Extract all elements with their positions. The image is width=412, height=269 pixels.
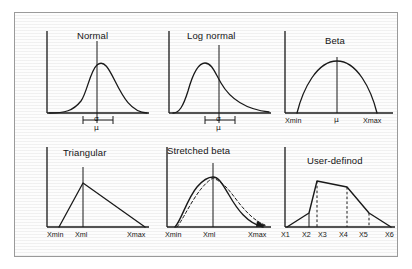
axis-label-user-defined-x4: X4 — [339, 230, 348, 239]
axis-label-beta-xmin: Xmin — [285, 116, 301, 125]
panel-title-user-defined: User-definod — [307, 155, 363, 166]
axis-label-beta-mu: μ — [334, 115, 339, 124]
axis-label-triangular-xml: Xml — [75, 230, 87, 239]
normal-plot — [33, 27, 151, 131]
axis-label-stretched-beta-xmin: Xmin — [165, 230, 181, 239]
axis-label-user-defined-x2: X2 — [302, 230, 311, 239]
panel-title-log-normal: Log normal — [187, 30, 236, 41]
axis-label-user-defined-x5: X5 — [359, 230, 368, 239]
axis-label-beta-xmax: Xmax — [363, 116, 381, 125]
axis-label-stretched-beta-xmax: Xmax — [248, 230, 266, 239]
axis-label-triangular-xmax: Xmax — [127, 230, 145, 239]
panel-title-beta: Beta — [325, 35, 345, 46]
panel-stretched-beta: Stretched beta Xmin Xml Xmax — [153, 141, 273, 245]
axis-label-stretched-beta-xml: Xml — [203, 230, 215, 239]
panel-title-stretched-beta: Stretched beta — [167, 145, 230, 156]
panel-user-defined: User-definod X1 X2 X3 X4 X5 X6 — [273, 141, 397, 245]
panel-beta: Beta Xmin μ Xmax — [273, 27, 395, 131]
mu-label-log-normal: μ — [216, 123, 221, 132]
panel-triangular: Triangular Xmin Xml Xmax — [33, 141, 151, 245]
sigma-label-log-normal: σ — [216, 114, 221, 123]
panel-title-normal: Normal — [77, 30, 108, 41]
sigma-label-normal: σ — [94, 114, 99, 123]
figure-frame: Normal σ μ Log normal σ μ Beta — [14, 12, 398, 257]
panel-log-normal: Log normal σ μ — [155, 27, 273, 131]
panel-title-triangular: Triangular — [63, 147, 106, 158]
mu-label-normal: μ — [94, 123, 99, 132]
axis-label-user-defined-x3: X3 — [318, 230, 327, 239]
log-normal-plot — [155, 27, 273, 131]
axis-label-user-defined-x6: X6 — [385, 230, 394, 239]
panel-normal: Normal σ μ — [33, 27, 151, 131]
axis-label-user-defined-x1: X1 — [281, 230, 290, 239]
axis-label-triangular-xmin: Xmin — [47, 230, 63, 239]
